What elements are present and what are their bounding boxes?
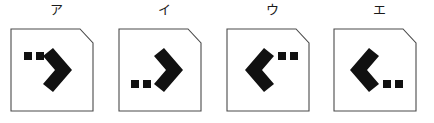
option-figure-3 <box>226 28 310 112</box>
option-label-2: イ <box>116 2 212 18</box>
option-figure-2 <box>118 28 202 112</box>
answer-options-figure: ア イ <box>0 0 434 123</box>
panel-outline-1 <box>11 29 93 111</box>
option-label-4: エ <box>331 2 427 18</box>
option-panel-3[interactable]: ウ <box>224 0 320 123</box>
panel-outline-4 <box>334 29 416 111</box>
option-figure-4 <box>333 28 417 112</box>
option-figure-1 <box>10 28 94 112</box>
option-label-1: ア <box>8 2 104 18</box>
panel-outline-2 <box>119 29 201 111</box>
option-panel-4[interactable]: エ <box>331 0 427 123</box>
option-panel-2[interactable]: イ <box>116 0 212 123</box>
panel-outline-3 <box>227 29 309 111</box>
option-panel-1[interactable]: ア <box>8 0 104 123</box>
option-label-3: ウ <box>224 2 320 18</box>
